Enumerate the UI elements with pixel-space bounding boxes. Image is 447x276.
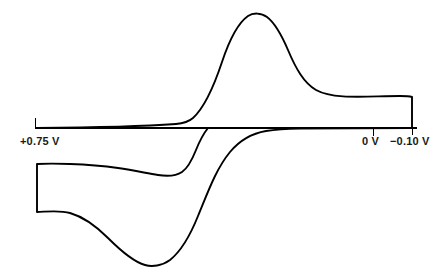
axis-label-switch-potential: −0.10 V (390, 136, 430, 147)
anodic-forward-sweep-trace (37, 14, 412, 128)
cyclic-voltammogram-figure: +0.75 V 0 V −0.10 V (0, 0, 447, 276)
axis-label-zero-potential: 0 V (362, 136, 379, 147)
cathodic-return-sweep-trace (37, 128, 412, 266)
voltammogram-plot (0, 0, 447, 276)
axis-label-start-potential: +0.75 V (20, 136, 60, 147)
